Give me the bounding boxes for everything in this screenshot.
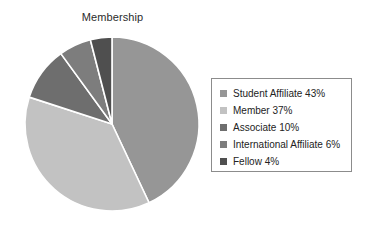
legend-swatch-icon — [220, 141, 227, 148]
pie-svg — [0, 0, 225, 238]
legend-item[interactable]: Fellow 4% — [220, 153, 351, 170]
legend-swatch-icon — [220, 107, 227, 114]
pie-slice-group — [25, 37, 199, 211]
legend-item[interactable]: Associate 10% — [220, 119, 351, 136]
legend-item[interactable]: Student Affiliate 43% — [220, 85, 351, 102]
legend-item-label: Associate 10% — [233, 122, 299, 133]
legend-item-label: Member 37% — [233, 105, 292, 116]
legend-swatch-icon — [220, 90, 227, 97]
legend-item[interactable]: International Affiliate 6% — [220, 136, 351, 153]
legend-swatch-icon — [220, 124, 227, 131]
legend-item-label: Student Affiliate 43% — [233, 88, 325, 99]
pie-plot-area — [0, 0, 225, 238]
chart-legend: Student Affiliate 43% Member 37% Associa… — [211, 78, 352, 172]
legend-item-label: International Affiliate 6% — [233, 139, 340, 150]
legend-swatch-icon — [220, 158, 227, 165]
legend-item[interactable]: Member 37% — [220, 102, 351, 119]
legend-item-label: Fellow 4% — [233, 156, 279, 167]
pie-chart-figure: Membership Student Affiliate 43% Member … — [0, 0, 369, 238]
